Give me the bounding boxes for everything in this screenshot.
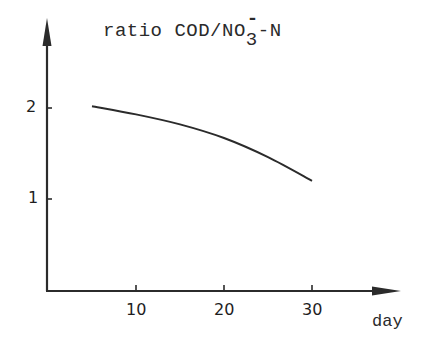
x-tick-label: 20 — [214, 300, 234, 319]
y-axis — [43, 18, 52, 291]
y-axis-arrow-icon — [43, 18, 52, 46]
y-tick-label: 2 — [26, 97, 36, 116]
title-subscript: 3 — [246, 29, 258, 51]
chart-canvas — [0, 0, 429, 349]
x-tick-label: 10 — [126, 300, 146, 319]
axis-ticks — [47, 108, 312, 291]
x-axis-label: day — [372, 312, 403, 331]
y-tick-label: 1 — [28, 188, 38, 207]
data-line — [92, 106, 312, 181]
title-tail: -N — [258, 20, 282, 42]
title-main: ratio COD/NO — [103, 20, 246, 42]
title-superscript: - — [247, 8, 259, 30]
chart-title: ratio COD/NO3--N — [103, 20, 282, 42]
x-axis-arrow-icon — [372, 287, 401, 296]
x-tick-label: 30 — [302, 300, 322, 319]
